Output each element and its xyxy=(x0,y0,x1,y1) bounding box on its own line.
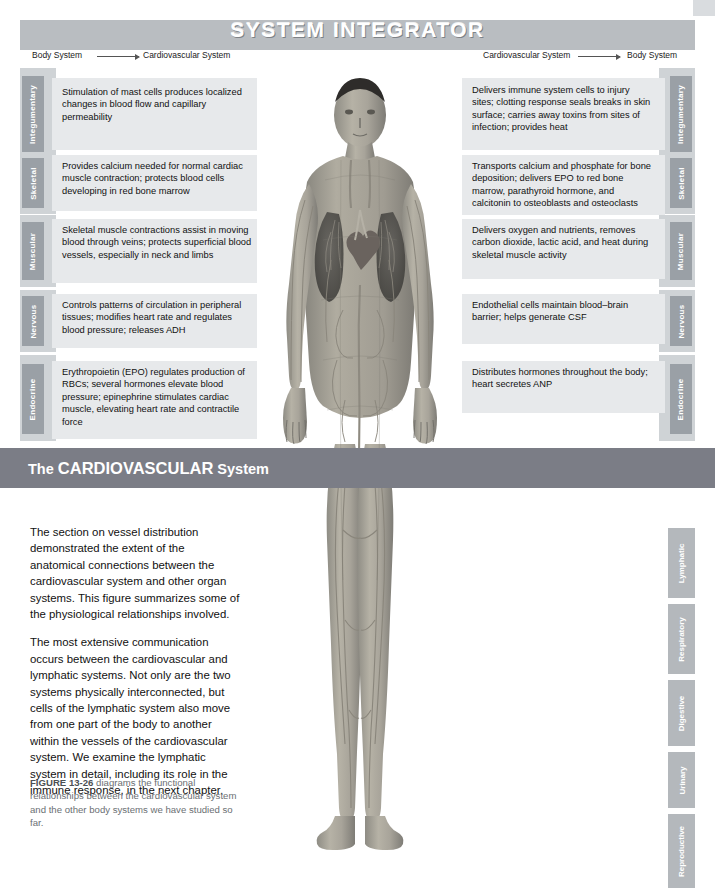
left-tab-integumentary-label: Integumentary xyxy=(29,84,38,143)
right-callout-integumentary-text: Delivers immune system cells to injury s… xyxy=(472,84,652,134)
left-tab-skeletal[interactable]: Skeletal xyxy=(22,158,44,208)
lower-tab-reproductive-label: Reproductive xyxy=(677,825,686,876)
body-paragraph-1: The section on vessel distribution demon… xyxy=(30,524,242,622)
left-tab-skeletal-label: Skeletal xyxy=(29,167,38,200)
section-title-suffix: System xyxy=(213,461,269,477)
right-tab-muscular-label: Muscular xyxy=(677,232,686,270)
body-text-block: The section on vessel distribution demon… xyxy=(30,524,242,811)
left-direction-to-label: Cardiovascular System xyxy=(143,50,230,60)
lower-tab-lymphatic[interactable]: Lymphatic xyxy=(668,528,695,598)
right-tab-nervous-label: Nervous xyxy=(677,304,686,338)
left-tab-nervous-label: Nervous xyxy=(29,304,38,338)
right-tab-endocrine-label: Endocrine xyxy=(677,378,686,420)
lower-tab-digestive-label: Digestive xyxy=(677,695,686,731)
figure-caption: FIGURE 13-26 diagrams the functional rel… xyxy=(30,776,248,830)
left-callout-muscular-text: Skeletal muscle contractions assist in m… xyxy=(62,224,252,261)
right-direction-from-label: Cardiovascular System xyxy=(483,50,570,60)
right-tab-integumentary-label: Integumentary xyxy=(677,84,686,143)
right-callout-endocrine-text: Distributes hormones throughout the body… xyxy=(472,366,652,391)
lower-tab-reproductive[interactable]: Reproductive xyxy=(668,814,695,888)
figure-caption-label: FIGURE 13-26 xyxy=(30,777,93,788)
right-callout-nervous-text: Endothelial cells maintain blood–brain b… xyxy=(472,299,652,324)
left-callout-integumentary-text: Stimulation of mast cells produces local… xyxy=(62,86,252,123)
right-tab-skeletal-label: Skeletal xyxy=(677,167,686,200)
right-tab-endocrine[interactable]: Endocrine xyxy=(670,364,692,434)
left-tab-nervous[interactable]: Nervous xyxy=(22,296,44,346)
right-callout-skeletal-text: Transports calcium and phosphate for bon… xyxy=(472,160,652,210)
page-corner-mark xyxy=(693,0,715,16)
lower-tab-urinary[interactable]: Urinary xyxy=(668,752,695,808)
page-title: SYSTEM INTEGRATOR xyxy=(20,18,695,42)
left-tab-muscular-label: Muscular xyxy=(29,232,38,270)
left-callout-nervous-text: Controls patterns of circulation in peri… xyxy=(62,299,252,336)
lower-tab-respiratory-label: Respiratory xyxy=(677,617,686,661)
section-title: The CARDIOVASCULAR System xyxy=(28,459,269,478)
lower-tab-lymphatic-label: Lymphatic xyxy=(677,543,686,583)
right-tab-nervous[interactable]: Nervous xyxy=(670,296,692,346)
right-direction-to-label: Body System xyxy=(627,50,677,60)
right-tab-muscular[interactable]: Muscular xyxy=(670,222,692,280)
lower-tab-urinary-label: Urinary xyxy=(677,766,686,794)
left-callout-skeletal-text: Provides calcium needed for normal cardi… xyxy=(62,160,252,197)
body-paragraph-2: The most extensive communication occurs … xyxy=(30,634,242,798)
section-title-system: CARDIOVASCULAR xyxy=(58,459,214,477)
section-title-prefix: The xyxy=(28,461,58,477)
left-tab-muscular[interactable]: Muscular xyxy=(22,222,44,280)
left-callout-endocrine-text: Erythropoietin (EPO) regulates productio… xyxy=(62,366,252,428)
lower-tab-digestive[interactable]: Digestive xyxy=(668,680,695,746)
left-direction-arrow xyxy=(97,56,139,57)
left-tab-endocrine-label: Endocrine xyxy=(29,378,38,420)
right-tab-skeletal[interactable]: Skeletal xyxy=(670,158,692,208)
right-tab-integumentary[interactable]: Integumentary xyxy=(670,76,692,152)
lower-tab-respiratory[interactable]: Respiratory xyxy=(668,604,695,674)
left-tab-integumentary[interactable]: Integumentary xyxy=(22,76,44,152)
right-direction-arrow xyxy=(578,56,620,57)
left-tab-endocrine[interactable]: Endocrine xyxy=(22,364,44,434)
left-direction-from-label: Body System xyxy=(32,50,82,60)
right-callout-muscular-text: Delivers oxygen and nutrients, removes c… xyxy=(472,224,652,261)
